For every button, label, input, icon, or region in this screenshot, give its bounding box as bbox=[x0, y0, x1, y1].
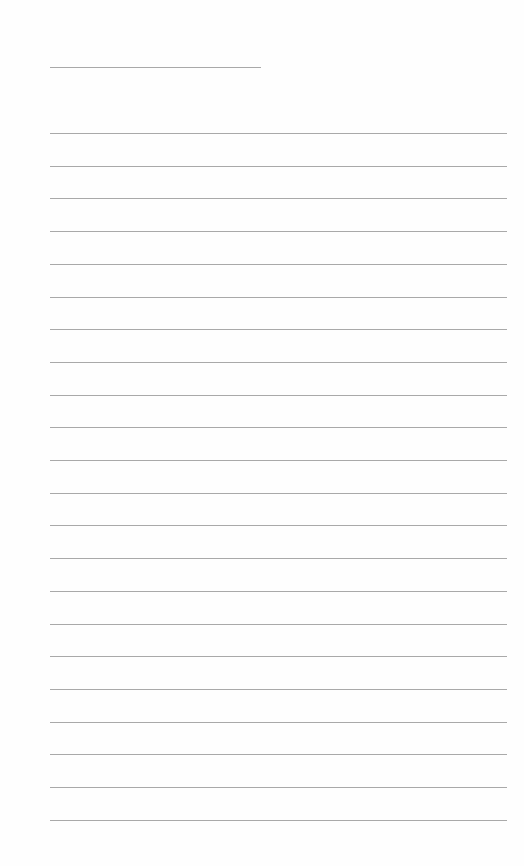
ruled-line bbox=[50, 362, 507, 363]
ruled-line bbox=[50, 493, 507, 494]
ruled-line bbox=[50, 754, 507, 755]
ruled-line bbox=[50, 231, 507, 232]
ruled-line bbox=[50, 820, 507, 821]
ruled-line bbox=[50, 198, 507, 199]
ruled-line bbox=[50, 525, 507, 526]
ruled-line bbox=[50, 689, 507, 690]
ruled-line bbox=[50, 297, 507, 298]
header-line bbox=[50, 67, 261, 68]
ruled-line bbox=[50, 264, 507, 265]
ruled-line bbox=[50, 558, 507, 559]
ruled-line bbox=[50, 133, 507, 134]
ruled-line bbox=[50, 624, 507, 625]
ruled-line bbox=[50, 591, 507, 592]
ruled-line bbox=[50, 166, 507, 167]
ruled-line bbox=[50, 787, 507, 788]
lined-paper-page bbox=[0, 0, 524, 866]
ruled-line bbox=[50, 329, 507, 330]
ruled-line bbox=[50, 460, 507, 461]
ruled-line bbox=[50, 395, 507, 396]
ruled-line bbox=[50, 722, 507, 723]
ruled-line bbox=[50, 427, 507, 428]
ruled-line bbox=[50, 656, 507, 657]
